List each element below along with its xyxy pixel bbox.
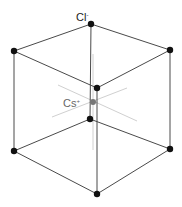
cs-ion-center <box>90 99 96 105</box>
cscl-unit-cell-diagram: Cl- Cs+ <box>0 0 182 207</box>
cube-edges <box>14 24 170 194</box>
cl-ion-bottom <box>94 191 100 197</box>
cl-ions <box>11 21 173 197</box>
cl-label: Cl- <box>76 11 88 23</box>
cl-ion-upper-right <box>167 47 173 53</box>
cl-ion-upper-left <box>11 48 17 54</box>
cl-ion-lower-right <box>167 146 173 152</box>
cl-ion-lower-left <box>11 148 17 154</box>
cl-ion-top <box>88 21 94 27</box>
cl-ion-inner-bottom <box>87 116 93 122</box>
cl-ion-inner-top <box>94 85 100 91</box>
